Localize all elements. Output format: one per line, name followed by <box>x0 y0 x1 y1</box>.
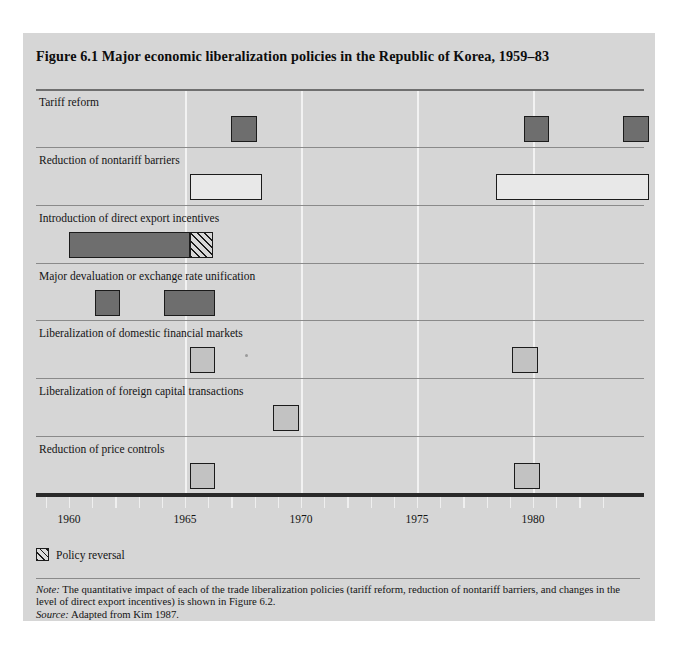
gridline-1970 <box>301 89 303 494</box>
row-divider <box>36 320 644 321</box>
policy-bar <box>514 463 540 489</box>
row-divider <box>36 205 644 206</box>
legend-label: Policy reversal <box>56 549 125 561</box>
policy-bar <box>231 116 257 142</box>
axis-tick <box>371 497 372 508</box>
axis-tick <box>324 497 325 508</box>
policy-bar <box>190 174 262 200</box>
axis-tick <box>255 497 256 508</box>
axis-tick <box>46 497 47 508</box>
chart-plot-area: Tariff reformReduction of nontariff barr… <box>36 89 644 494</box>
row-divider <box>36 147 644 148</box>
policy-bar <box>190 347 216 373</box>
note-paragraph: Note: The quantitative impact of each of… <box>36 583 640 608</box>
x-axis <box>36 493 644 497</box>
gridline-1980 <box>533 89 535 494</box>
note-prefix: Note: <box>36 583 60 595</box>
gridline-1975 <box>417 89 419 494</box>
policy-bar <box>69 232 190 258</box>
axis-tick <box>417 497 418 508</box>
row-divider <box>36 89 644 91</box>
axis-tick-label: 1975 <box>406 513 429 525</box>
row-label: Liberalization of domestic financial mar… <box>39 327 243 339</box>
source-prefix: Source: <box>36 608 69 620</box>
axis-tick <box>69 497 70 508</box>
axis-tick-label: 1980 <box>522 513 545 525</box>
note-text: The quantitative impact of each of the t… <box>36 583 620 607</box>
policy-bar <box>623 116 649 142</box>
row-label: Liberalization of foreign capital transa… <box>39 385 243 397</box>
policy-bar <box>164 290 215 316</box>
hatched-pattern-swatch <box>36 548 49 561</box>
artifact-speck <box>245 354 248 357</box>
axis-tick <box>579 497 580 508</box>
source-paragraph: Source: Adapted from Kim 1987. <box>36 608 640 620</box>
page-title: Figure 6.1 Major economic liberalization… <box>36 48 636 65</box>
row-divider <box>36 378 644 379</box>
axis-tick <box>185 497 186 508</box>
axis-tick <box>487 497 488 508</box>
axis-tick <box>533 497 534 508</box>
axis-tick <box>463 497 464 508</box>
row-label: Reduction of price controls <box>39 443 165 455</box>
figure-page: Figure 6.1 Major economic liberalization… <box>0 0 678 654</box>
row-label: Introduction of direct export incentives <box>39 212 219 224</box>
axis-tick <box>347 497 348 508</box>
axis-tick <box>278 497 279 508</box>
row-divider <box>36 436 644 437</box>
axis-tick <box>92 497 93 508</box>
policy-bar <box>95 290 121 316</box>
policy-bar <box>273 405 299 431</box>
row-label: Tariff reform <box>39 96 99 108</box>
row-divider <box>36 263 644 264</box>
axis-tick <box>394 497 395 508</box>
axis-tick <box>440 497 441 508</box>
axis-tick-label: 1960 <box>58 513 81 525</box>
policy-bar <box>190 463 216 489</box>
figure-notes: Note: The quantitative impact of each of… <box>36 583 640 620</box>
axis-tick <box>115 497 116 508</box>
note-divider <box>36 578 640 579</box>
axis-tick <box>556 497 557 508</box>
axis-tick-label: 1970 <box>290 513 313 525</box>
legend: Policy reversal <box>36 548 125 561</box>
axis-tick <box>208 497 209 508</box>
policy-reversal-bar <box>190 232 213 258</box>
row-label: Reduction of nontariff barriers <box>39 154 180 166</box>
axis-tick <box>162 497 163 508</box>
axis-tick <box>603 497 604 508</box>
axis-tick-label: 1965 <box>174 513 197 525</box>
axis-tick <box>301 497 302 508</box>
axis-tick <box>231 497 232 508</box>
policy-bar <box>512 347 538 373</box>
row-label: Major devaluation or exchange rate unifi… <box>39 270 255 282</box>
axis-tick <box>139 497 140 508</box>
source-text: Adapted from Kim 1987. <box>69 608 179 620</box>
axis-tick <box>510 497 511 508</box>
policy-bar <box>496 174 649 200</box>
policy-bar <box>524 116 550 142</box>
